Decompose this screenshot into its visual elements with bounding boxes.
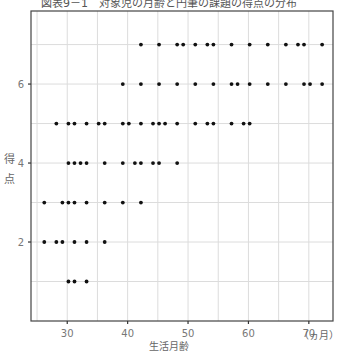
data-point (73, 201, 77, 205)
data-point (151, 122, 155, 126)
data-point (42, 201, 46, 205)
data-point (73, 280, 77, 284)
data-point (230, 43, 234, 47)
data-point (212, 122, 216, 126)
data-point (242, 122, 246, 126)
data-point (121, 161, 125, 165)
data-point (121, 122, 125, 126)
data-point (175, 43, 179, 47)
data-point (193, 82, 197, 86)
data-point (157, 43, 161, 47)
data-point (54, 122, 58, 126)
data-point (73, 240, 77, 244)
plot-frame (31, 11, 333, 321)
data-point (284, 82, 288, 86)
data-point (85, 240, 89, 244)
data-point (163, 122, 167, 126)
data-point (139, 122, 143, 126)
data-point (320, 43, 324, 47)
data-point (85, 280, 89, 284)
data-point (212, 82, 216, 86)
data-point (67, 201, 71, 205)
data-point (85, 122, 89, 126)
data-point (67, 122, 71, 126)
data-point (302, 82, 306, 86)
data-point (103, 161, 107, 165)
data-point (139, 82, 143, 86)
data-point (121, 82, 125, 86)
data-point (133, 161, 137, 165)
data-point (230, 122, 234, 126)
data-point (61, 201, 65, 205)
data-point (302, 43, 306, 47)
data-point (42, 240, 46, 244)
data-point (157, 82, 161, 86)
data-point (193, 43, 197, 47)
y-axis-label: 得点 (2, 150, 16, 190)
data-point (175, 161, 179, 165)
data-point (284, 43, 288, 47)
data-point (61, 240, 65, 244)
data-point (205, 122, 209, 126)
y-tick-label: 2 (18, 237, 24, 248)
data-point (139, 161, 143, 165)
data-point (248, 82, 252, 86)
data-point (103, 122, 107, 126)
scatter-plot: 3040506070246 (0, 0, 338, 356)
data-point (193, 122, 197, 126)
data-point (139, 201, 143, 205)
y-tick-label: 6 (18, 79, 24, 90)
data-point (103, 240, 107, 244)
data-point (157, 122, 161, 126)
data-point (212, 43, 216, 47)
data-point (97, 122, 101, 126)
data-point (67, 280, 71, 284)
data-point (103, 201, 107, 205)
data-point (54, 240, 58, 244)
data-point (236, 82, 240, 86)
data-point (139, 43, 143, 47)
data-point (181, 43, 185, 47)
x-axis-unit: （ヵ月） (299, 327, 338, 342)
data-point (230, 82, 234, 86)
data-point (296, 43, 300, 47)
data-point (266, 43, 270, 47)
data-point (248, 122, 252, 126)
data-point (266, 82, 270, 86)
y-tick-label: 4 (18, 158, 24, 169)
data-point (73, 122, 77, 126)
data-point (151, 161, 155, 165)
data-point (205, 43, 209, 47)
data-point (73, 161, 77, 165)
data-point (157, 161, 161, 165)
data-point (248, 43, 252, 47)
x-axis-label: 生活月齢 (0, 338, 338, 353)
data-point (175, 82, 179, 86)
y-axis-label-text: 得点 (4, 153, 15, 186)
data-point (85, 201, 89, 205)
data-point (308, 82, 312, 86)
data-point (85, 161, 89, 165)
data-point (127, 122, 131, 126)
data-point (121, 201, 125, 205)
data-point (320, 82, 324, 86)
data-point (79, 161, 83, 165)
data-point (175, 122, 179, 126)
data-point (67, 161, 71, 165)
